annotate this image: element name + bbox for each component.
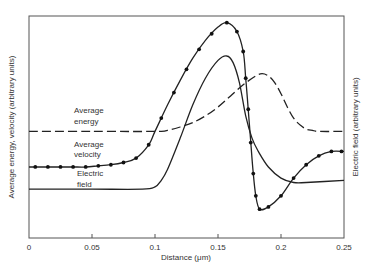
data-point-average-velocity <box>317 154 321 158</box>
data-point-average-velocity <box>46 165 50 169</box>
data-point-average-velocity <box>279 194 283 198</box>
data-point-average-velocity <box>225 21 229 25</box>
data-point-average-velocity <box>251 172 255 176</box>
data-point-average-velocity <box>185 67 189 71</box>
data-point-average-velocity <box>292 176 296 180</box>
data-point-average-velocity <box>197 47 201 51</box>
data-point-average-velocity <box>210 32 214 36</box>
x-ticks <box>92 234 281 238</box>
data-point-average-velocity <box>159 116 163 120</box>
y-axis-title: Average energy, velocity (arbitrary unit… <box>7 55 16 198</box>
data-point-average-velocity <box>33 165 37 169</box>
annotation-average-energy: Average energy <box>74 106 104 126</box>
annotation-average-velocity: Average velocity <box>74 140 104 159</box>
annotation-electric-field-line1: Electric <box>77 169 103 178</box>
annotation-electric-field: Electric field <box>77 169 103 189</box>
data-point-average-velocity <box>249 141 253 145</box>
annotation-average-energy-line2: energy <box>74 117 98 126</box>
annotation-average-velocity-line2: velocity <box>74 150 101 159</box>
data-point-average-velocity <box>246 107 250 111</box>
x-axis-title: Distance (μm) <box>161 253 211 262</box>
data-point-average-velocity <box>340 150 344 154</box>
x-tick-label: 0.2 <box>275 243 287 252</box>
data-point-average-velocity <box>267 205 271 209</box>
data-point-average-velocity <box>254 194 258 198</box>
data-point-average-velocity <box>96 164 100 168</box>
data-point-average-velocity <box>109 163 113 167</box>
data-point-average-velocity <box>244 76 248 80</box>
data-point-average-velocity <box>59 165 63 169</box>
x-tick-label: 0.15 <box>210 243 226 252</box>
data-point-average-velocity <box>330 150 334 154</box>
annotation-electric-field-line2: field <box>77 180 92 189</box>
x-tick-labels: 00.050.10.150.20.25 <box>27 243 353 252</box>
chart: 00.050.10.150.20.25 Distance (μm) Averag… <box>0 0 369 280</box>
data-point-average-velocity <box>235 30 239 34</box>
data-point-average-velocity <box>304 163 308 167</box>
x-tick-label: 0.05 <box>84 243 100 252</box>
x-tick-label: 0 <box>27 243 32 252</box>
x-tick-label: 0.1 <box>149 243 161 252</box>
annotation-average-velocity-line1: Average <box>74 140 104 149</box>
data-point-average-velocity <box>241 50 245 54</box>
data-point-average-velocity <box>147 143 151 147</box>
annotation-average-energy-line1: Average <box>74 106 104 115</box>
plot-frame <box>29 16 344 238</box>
data-point-average-velocity <box>71 165 75 169</box>
y2-axis-title: Electric field (arbitrary units) <box>351 77 360 176</box>
data-point-average-velocity <box>172 91 176 95</box>
data-point-average-velocity <box>134 156 138 160</box>
data-point-average-velocity <box>258 207 262 211</box>
data-point-average-velocity <box>122 161 126 165</box>
x-tick-label: 0.25 <box>336 243 352 252</box>
